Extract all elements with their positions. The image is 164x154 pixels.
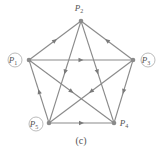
node-label-P1: P1 [8, 55, 18, 66]
figure-caption: (c) [75, 135, 86, 147]
node-label-P4: P4 [119, 118, 129, 129]
edges [29, 21, 133, 125]
node-P2 [79, 19, 84, 24]
node-label-P2: P2 [74, 3, 84, 14]
nodes: P1P2P3P4P5 [8, 3, 155, 131]
node-P3 [131, 58, 136, 63]
node-P5 [47, 121, 52, 126]
node-label-P3: P3 [141, 55, 151, 66]
arrowhead-icon [38, 89, 42, 94]
arrowhead-icon [64, 69, 68, 74]
arrowhead-icon [95, 69, 99, 74]
directed-graph: P1P2P3P4P5 (c) [0, 0, 164, 154]
node-P4 [112, 121, 117, 126]
arrowhead-icon [79, 58, 84, 62]
node-P1 [27, 58, 32, 63]
arrowhead-icon [79, 121, 84, 125]
arrowhead-icon [122, 88, 126, 93]
node-label-P5: P5 [29, 119, 39, 130]
